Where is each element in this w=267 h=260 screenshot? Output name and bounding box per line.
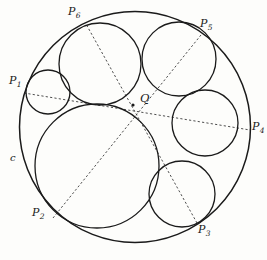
label-p6-text: P	[68, 5, 75, 18]
circle-2-large-bottom	[35, 104, 159, 228]
label-p4-sub: 4	[260, 126, 265, 135]
label-c: c	[10, 153, 16, 163]
label-p2: P2	[32, 207, 44, 218]
label-p2-text: P	[32, 206, 39, 219]
label-p5-text: P	[200, 17, 207, 30]
label-p3: P3	[198, 224, 210, 235]
label-p5-sub: 5	[208, 23, 213, 32]
label-p3-text: P	[198, 223, 205, 236]
label-p3-sub: 3	[206, 229, 211, 238]
label-p4-text: P	[252, 120, 259, 133]
circle-4-right	[172, 90, 238, 156]
label-p2-sub: 2	[40, 212, 45, 221]
label-p1-text: P	[9, 74, 16, 87]
outer-circle-c	[20, 12, 251, 243]
label-p1: P1	[9, 75, 21, 86]
label-c-text: c	[10, 152, 16, 163]
circle-6-top-left	[59, 23, 141, 105]
circle-3-bottom-right	[149, 161, 215, 227]
point-q-dot	[131, 103, 134, 106]
label-q-text: Q	[140, 91, 149, 105]
inner-circle-group	[26, 22, 238, 228]
label-p6-sub: 6	[76, 11, 81, 20]
circle-1-small-left	[26, 70, 70, 114]
label-p4: P4	[252, 121, 264, 132]
geometry-canvas	[0, 0, 267, 260]
label-p1-sub: 1	[17, 80, 22, 89]
label-q: Q	[140, 93, 149, 105]
label-p6: P6	[68, 6, 80, 17]
geometry-figure: P1 P2 P3 P4 P5 P6 Q c	[0, 0, 267, 260]
label-p5: P5	[200, 18, 212, 29]
circle-5-top-right	[142, 22, 216, 96]
